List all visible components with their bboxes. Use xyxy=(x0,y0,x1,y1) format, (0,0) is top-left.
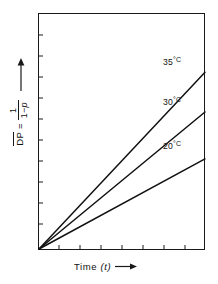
plot-area-frame xyxy=(38,13,205,250)
series-label-35c: 35°C xyxy=(163,55,181,67)
chart-figure: DP = 1 1−p Time (t) 35°C 30°C 20°C xyxy=(0,0,218,284)
y-axis-fraction: 1 1−p xyxy=(9,100,29,120)
series-label-35c-value: 35 xyxy=(163,57,173,67)
right-arrow-icon xyxy=(115,262,137,271)
y-axis-symbol: DP xyxy=(13,132,25,146)
series-label-35c-unit: °C xyxy=(173,56,181,63)
y-axis-label: DP = 1 1−p xyxy=(2,74,36,172)
denominator-minus: − xyxy=(19,108,29,113)
series-label-30c-unit: °C xyxy=(173,96,181,103)
denominator-p: p xyxy=(19,102,29,107)
denominator-one: 1 xyxy=(19,113,29,118)
y-axis-numerator: 1 xyxy=(9,106,19,115)
series-label-30c: 30°C xyxy=(163,95,181,107)
series-label-30c-value: 30 xyxy=(163,97,173,107)
y-axis-label-group: DP = 1 1−p xyxy=(2,58,36,208)
x-axis-label-text: Time xyxy=(74,261,97,272)
x-axis-label-group: Time (t) xyxy=(74,258,137,274)
series-label-20c-unit: °C xyxy=(173,140,181,147)
x-axis-label: Time (t) xyxy=(74,261,111,272)
y-axis-denominator: 1−p xyxy=(19,100,29,120)
y-axis-equals: = xyxy=(14,123,25,129)
series-label-20c-value: 20 xyxy=(163,141,173,151)
x-axis-variable: (t) xyxy=(100,261,111,272)
series-label-20c: 20°C xyxy=(163,139,181,151)
